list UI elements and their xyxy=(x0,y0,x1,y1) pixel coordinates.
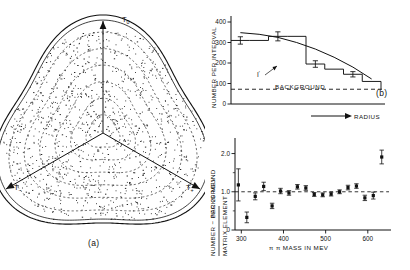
dalitz-plot-svg: T0 T− T+ xyxy=(0,0,205,270)
scatter-point-9 xyxy=(313,193,316,196)
scatter-point-7 xyxy=(296,185,299,188)
background-label: BACKGROUND xyxy=(275,83,325,90)
scatter-svg: 01.02.0 300400500600 PER 20 MEV NUMBER −… xyxy=(205,130,410,270)
histogram-axes xyxy=(231,16,385,104)
hist-ytick-label-0: 0 xyxy=(222,100,226,107)
curve-pointer-arrowhead xyxy=(273,66,278,71)
axis-tminus xyxy=(6,133,103,189)
axis-sub-t0: 0 xyxy=(127,19,130,25)
scatter-ytick-label-2: 2.0 xyxy=(221,150,230,157)
axis-label-t0: T0 xyxy=(122,15,130,25)
hist-step-path xyxy=(231,36,381,89)
panel-a-dalitz-plot: T0 T− T+ (a) xyxy=(0,0,205,270)
scatter-point-16 xyxy=(372,194,375,197)
axis-label-tminus: T− xyxy=(14,183,22,193)
panel-b-xlabel: RADIUS xyxy=(354,113,380,120)
histogram-error-bars xyxy=(238,32,356,77)
scatter-ytick-label-1: 1.0 xyxy=(221,188,230,195)
dalitz-radial-axes xyxy=(6,21,200,189)
scatter-point-1 xyxy=(245,216,248,219)
scatter-xtick-label-300: 300 xyxy=(236,235,247,242)
histogram-step-outline xyxy=(231,36,381,89)
scatter-point-3 xyxy=(262,185,265,188)
scatter-xtick-label-500: 500 xyxy=(320,235,331,242)
histogram-svg: 0100200300400 NUMBER PER INTERVAL BACKGR… xyxy=(205,0,410,133)
scatter-point-5 xyxy=(279,189,282,192)
scatter-axes xyxy=(235,138,391,230)
scatter-xtick-label-600: 600 xyxy=(362,235,373,242)
scatter-point-12 xyxy=(338,190,341,193)
curve-label-i-prime: I′ xyxy=(257,70,260,78)
scatter-point-13 xyxy=(346,186,349,189)
panel-c-ylabel-denominator: MATRIX ELEMENT xyxy=(221,196,228,256)
axis-tplus xyxy=(103,133,200,189)
hist-ytick-label-400: 400 xyxy=(215,18,226,25)
panel-c-ylabel-numerator: NUMBER − BACKGROUND xyxy=(209,169,216,256)
scatter-point-2 xyxy=(254,195,257,198)
scatter-point-14 xyxy=(355,184,358,187)
panel-b-ylabel: NUMBER PER INTERVAL xyxy=(210,27,217,108)
panel-c-scatter: 01.02.0 300400500600 PER 20 MEV NUMBER −… xyxy=(205,130,410,270)
panel-a-tag: (a) xyxy=(88,238,100,248)
panel-b-tag: (b) xyxy=(376,88,388,98)
axis-sub-tminus: − xyxy=(19,187,22,193)
panel-b-histogram: 0100200300400 NUMBER PER INTERVAL BACKGR… xyxy=(205,0,410,133)
scatter-point-10 xyxy=(321,193,324,196)
axis-t0-arrowhead xyxy=(100,21,107,29)
scatter-point-0 xyxy=(237,183,240,186)
figure-root: T0 T− T+ (a) 0100200300400 NUMBER PER IN… xyxy=(0,0,410,270)
axis-sub-tplus: + xyxy=(191,187,194,193)
scatter-point-15 xyxy=(363,196,366,199)
scatter-xtick-label-400: 400 xyxy=(278,235,289,242)
scatter-point-4 xyxy=(271,204,274,207)
scatter-points-with-errorbars xyxy=(236,150,384,223)
scatter-point-17 xyxy=(380,155,383,158)
scatter-point-8 xyxy=(304,186,307,189)
histogram-y-ticks: 0100200300400 xyxy=(215,18,231,107)
radius-arrow-head xyxy=(345,113,352,119)
panel-c-xlabel: π π MASS IN MEV xyxy=(269,244,329,251)
scatter-point-11 xyxy=(330,192,333,195)
scatter-x-ticks: 300400500600 xyxy=(236,230,374,242)
scatter-point-6 xyxy=(287,191,290,194)
radius-arrow-icon xyxy=(311,113,352,119)
